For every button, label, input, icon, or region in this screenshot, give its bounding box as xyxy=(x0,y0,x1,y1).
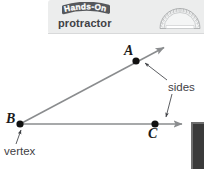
point-label-a: A xyxy=(124,44,133,58)
annotation-vertex: vertex xyxy=(4,146,35,158)
point-b-dot xyxy=(16,120,23,127)
sides-leader-to-c xyxy=(166,94,172,117)
point-label-c: C xyxy=(148,127,157,141)
point-label-b: B xyxy=(6,112,15,126)
cropped-dark-panel xyxy=(191,122,204,169)
point-a-dot xyxy=(132,57,139,64)
sides-leader-to-a xyxy=(145,63,167,80)
ray-ba xyxy=(20,48,164,125)
annotation-sides: sides xyxy=(168,82,195,94)
angle-diagram-page: Hands-On protractor xyxy=(0,0,204,169)
vertex-leader-to-b xyxy=(16,130,21,144)
